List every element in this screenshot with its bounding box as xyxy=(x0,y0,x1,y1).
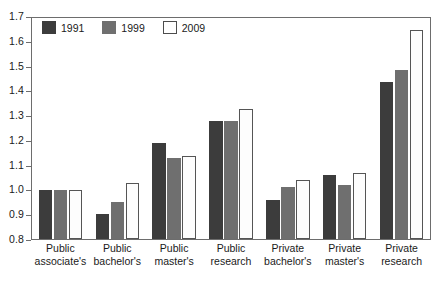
x-axis-label: Publicbachelor's xyxy=(89,242,146,268)
bar-1999-0 xyxy=(54,190,68,239)
y-axis-tick-label: 0.9 xyxy=(9,208,24,220)
bar-2009-6 xyxy=(410,30,424,239)
y-axis-tick-mark xyxy=(26,17,31,18)
x-axis-label: Privatemaster's xyxy=(316,242,373,268)
bar-2009-0 xyxy=(69,190,83,239)
bar-2009-1 xyxy=(126,183,140,239)
legend-swatch-icon xyxy=(102,21,116,34)
bar-1991-0 xyxy=(39,190,53,239)
y-axis: 1.71.61.51.41.31.21.11.00.90.8 xyxy=(0,17,31,240)
legend-label: 1991 xyxy=(61,22,84,34)
y-axis-tick-mark xyxy=(26,42,31,43)
legend-item-2009: 2009 xyxy=(163,21,205,34)
bar-chart: 1.71.61.51.41.31.21.11.00.90.8 1991 1999… xyxy=(0,0,437,283)
y-axis-tick-mark xyxy=(26,190,31,191)
bar-group xyxy=(89,18,146,239)
legend-label: 1999 xyxy=(121,22,144,34)
bar-1999-2 xyxy=(167,158,181,239)
plot-area xyxy=(32,18,430,239)
y-axis-tick-mark xyxy=(26,166,31,167)
bar-group xyxy=(373,18,430,239)
y-axis-tick-label: 1.1 xyxy=(9,159,24,171)
bar-group xyxy=(146,18,203,239)
bar-1999-1 xyxy=(111,202,125,239)
bar-group xyxy=(259,18,316,239)
x-axis-label: Privateresearch xyxy=(373,242,430,268)
x-axis-label: Privatebachelor's xyxy=(259,242,316,268)
x-axis-label: Publicmaster's xyxy=(146,242,203,268)
legend-item-1991: 1991 xyxy=(42,21,84,34)
bar-1999-3 xyxy=(224,121,238,239)
bar-2009-5 xyxy=(353,173,367,239)
y-axis-tick-mark xyxy=(26,116,31,117)
y-axis-tick-label: 1.2 xyxy=(9,134,24,146)
legend-item-1999: 1999 xyxy=(102,21,144,34)
bar-1999-4 xyxy=(281,187,295,239)
y-axis-tick-label: 1.5 xyxy=(9,60,24,72)
bar-1991-2 xyxy=(152,143,166,239)
y-axis-tick-mark xyxy=(26,141,31,142)
legend-swatch-icon xyxy=(42,21,56,34)
bar-2009-3 xyxy=(239,109,253,239)
bar-group xyxy=(32,18,89,239)
y-axis-tick-mark xyxy=(26,67,31,68)
bar-2009-2 xyxy=(182,156,196,239)
bar-1999-6 xyxy=(395,70,409,239)
x-axis: Publicassociate'sPublicbachelor'sPublicm… xyxy=(32,242,430,283)
bar-1991-1 xyxy=(96,214,110,239)
y-axis-tick-label: 0.8 xyxy=(9,233,24,245)
x-axis-label: Publicassociate's xyxy=(32,242,89,268)
y-axis-tick-label: 1.0 xyxy=(9,183,24,195)
chart-legend: 1991 1999 2009 xyxy=(42,21,205,34)
y-axis-tick-label: 1.3 xyxy=(9,109,24,121)
bar-1991-3 xyxy=(209,121,223,239)
y-axis-tick-label: 1.6 xyxy=(9,35,24,47)
y-axis-tick-mark xyxy=(26,240,31,241)
legend-swatch-icon xyxy=(163,21,177,34)
bar-2009-4 xyxy=(296,180,310,239)
bar-1991-5 xyxy=(323,175,337,239)
bar-1991-6 xyxy=(380,82,394,239)
legend-label: 2009 xyxy=(182,22,205,34)
bar-group xyxy=(203,18,260,239)
bar-1991-4 xyxy=(266,200,280,239)
x-axis-label: Publicresearch xyxy=(203,242,260,268)
bar-group xyxy=(316,18,373,239)
y-axis-tick-mark xyxy=(26,215,31,216)
y-axis-tick-mark xyxy=(26,91,31,92)
y-axis-tick-label: 1.4 xyxy=(9,84,24,96)
bar-1999-5 xyxy=(338,185,352,239)
y-axis-tick-label: 1.7 xyxy=(9,10,24,22)
